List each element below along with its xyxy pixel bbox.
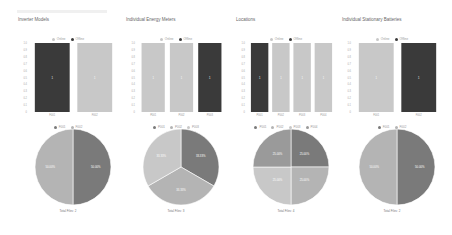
chart-svg: 00.10.20.30.40.50.60.70.80.91.01P0011P00… <box>122 0 230 225</box>
pie-slice-label: 25.00% <box>273 152 283 156</box>
pie-legend-item[interactable]: F002 <box>395 125 407 129</box>
legend-swatch <box>54 126 57 129</box>
pie-slice[interactable] <box>291 167 329 205</box>
pie-legend: P001P002P003 <box>122 125 230 129</box>
y-tick-label: 0.3 <box>131 89 135 93</box>
y-tick-label: 0.4 <box>23 82 27 86</box>
y-tick-label: 0.1 <box>131 103 135 107</box>
pie-legend-item[interactable]: P001 <box>153 125 165 129</box>
y-tick-label: 1.0 <box>241 41 245 45</box>
legend-label: P003 <box>192 125 199 129</box>
pie-slice-label: 50.00% <box>415 165 425 169</box>
legend-swatch <box>71 126 74 129</box>
chart-svg: 00.10.20.30.40.50.60.70.80.91.01F0011F00… <box>338 0 446 225</box>
pie-slice-label: 33.33% <box>157 154 167 158</box>
legend-swatch <box>395 126 398 129</box>
pie-slice[interactable] <box>291 129 329 167</box>
x-tick-label: F002 <box>416 113 422 117</box>
y-tick-label: 0 <box>244 110 246 114</box>
legend-swatch <box>271 126 274 129</box>
y-tick-label: 0.1 <box>241 103 245 107</box>
x-tick-label: P004 <box>320 113 327 117</box>
y-tick-label: 0.7 <box>131 62 135 66</box>
y-tick-label: 0.9 <box>347 48 351 52</box>
pie-slice-label: 33.33% <box>176 188 186 192</box>
x-tick-label: P001 <box>257 113 264 117</box>
pie-slice-label: 25.00% <box>300 178 310 182</box>
y-tick-label: 0.9 <box>23 48 27 52</box>
legend-label: P004 <box>311 125 318 129</box>
pie-legend: P001P002P003P004 <box>232 125 340 129</box>
x-tick-label: P001 <box>150 113 157 117</box>
pie-slice-label: 50.00% <box>369 165 379 169</box>
y-tick-label: 0.4 <box>241 82 245 86</box>
pie-footer: Total Files: 4 <box>232 209 340 213</box>
pie-legend-item[interactable]: F001 <box>378 125 390 129</box>
pie-slice-label: 50.00% <box>45 165 55 169</box>
y-tick-label: 0.6 <box>241 69 245 73</box>
y-tick-label: 0.6 <box>131 69 135 73</box>
pie-legend-item[interactable]: P002 <box>170 125 182 129</box>
y-tick-label: 0.3 <box>23 89 27 93</box>
y-tick-label: 1.0 <box>23 41 27 45</box>
legend-label: P001 <box>158 125 165 129</box>
legend-label: F001 <box>383 125 390 129</box>
chart-svg: 00.10.20.30.40.50.60.70.80.91.01F0011F00… <box>14 0 122 225</box>
legend-label: P003 <box>294 125 301 129</box>
legend-label: P002 <box>276 125 283 129</box>
pie-legend-item[interactable]: P003 <box>187 125 199 129</box>
x-tick-label: F002 <box>92 113 98 117</box>
y-tick-label: 0 <box>350 110 352 114</box>
legend-swatch <box>153 126 156 129</box>
legend-swatch <box>170 126 173 129</box>
y-tick-label: 0.1 <box>23 103 27 107</box>
pie-slice-label: 50.00% <box>91 165 101 169</box>
y-tick-label: 0.5 <box>347 76 351 80</box>
pie-legend-item[interactable]: P002 <box>271 125 283 129</box>
pie-legend-item[interactable]: F002 <box>71 125 83 129</box>
y-tick-label: 0.3 <box>241 89 245 93</box>
y-tick-label: 0 <box>26 110 28 114</box>
pie-legend-item[interactable]: P003 <box>289 125 301 129</box>
legend-label: F002 <box>400 125 407 129</box>
pie-legend-item[interactable]: P004 <box>306 125 318 129</box>
pie-legend: F001F002 <box>338 125 446 129</box>
y-tick-label: 0.8 <box>347 55 351 59</box>
y-tick-label: 0.2 <box>23 96 27 100</box>
y-tick-label: 0 <box>134 110 136 114</box>
chart-panel: Inverter ModelsOnlineOffline00.10.20.30.… <box>14 0 122 225</box>
pie-slice[interactable] <box>253 129 291 167</box>
pie-legend-item[interactable]: F001 <box>54 125 66 129</box>
x-tick-label: P002 <box>178 113 185 117</box>
y-tick-label: 1.0 <box>131 41 135 45</box>
chart-panel: LocationsOnlineOffline00.10.20.30.40.50.… <box>232 0 340 225</box>
y-tick-label: 0.2 <box>131 96 135 100</box>
y-tick-label: 0.9 <box>131 48 135 52</box>
pie-slice-label: 25.00% <box>300 152 310 156</box>
y-tick-label: 0.6 <box>23 69 27 73</box>
legend-label: P001 <box>259 125 266 129</box>
x-tick-label: P003 <box>207 113 214 117</box>
y-tick-label: 0.3 <box>347 89 351 93</box>
legend-label: P002 <box>175 125 182 129</box>
y-tick-label: 0.9 <box>241 48 245 52</box>
pie-legend-item[interactable]: P001 <box>254 125 266 129</box>
legend-swatch <box>306 126 309 129</box>
y-tick-label: 0.5 <box>23 76 27 80</box>
y-tick-label: 0.4 <box>347 82 351 86</box>
y-tick-label: 0.2 <box>241 96 245 100</box>
legend-label: F002 <box>76 125 83 129</box>
pie-footer: Total Files: 3 <box>122 209 230 213</box>
pie-slice-label: 25.00% <box>273 178 283 182</box>
y-tick-label: 0.5 <box>241 76 245 80</box>
y-tick-label: 0.8 <box>131 55 135 59</box>
x-tick-label: P003 <box>299 113 306 117</box>
y-tick-label: 0.7 <box>241 62 245 66</box>
y-tick-label: 1.0 <box>347 41 351 45</box>
x-tick-label: P002 <box>278 113 285 117</box>
pie-legend: F001F002 <box>14 125 122 129</box>
y-tick-label: 0.4 <box>131 82 135 86</box>
pie-slice[interactable] <box>253 167 291 205</box>
y-tick-label: 0.8 <box>241 55 245 59</box>
y-tick-label: 0.1 <box>347 103 351 107</box>
